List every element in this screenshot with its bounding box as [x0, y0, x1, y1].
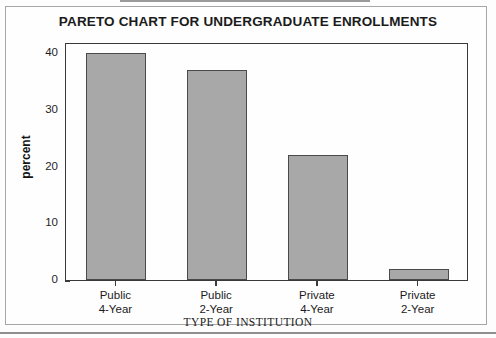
x-axis-tick-label-line2: 2-Year — [358, 302, 478, 316]
chart-title: PARETO CHART FOR UNDERGRADUATE ENROLLMEN… — [0, 14, 496, 29]
x-axis-tick — [316, 281, 318, 286]
y-axis-tick-label: 0 — [18, 273, 58, 285]
x-axis-tick-label-line1: Private — [299, 289, 335, 301]
x-axis-tick-label-line1: Public — [100, 289, 131, 301]
chart-page: PARETO CHART FOR UNDERGRADUATE ENROLLMEN… — [0, 0, 496, 338]
y-axis-tick-label: 10 — [18, 216, 58, 228]
page-bottom-rule — [0, 332, 496, 334]
y-axis-tick-label: 40 — [18, 46, 58, 58]
bar — [86, 53, 146, 280]
x-axis-tick — [115, 281, 117, 286]
x-axis-tick-label: Private2-Year — [358, 288, 478, 316]
x-axis-tick-label-line1: Public — [200, 289, 231, 301]
x-axis-tick-label-line1: Private — [400, 289, 436, 301]
y-axis-title: percent — [19, 117, 33, 197]
y-axis-tick-label: 30 — [18, 103, 58, 115]
bar — [389, 269, 449, 280]
bar — [187, 70, 247, 280]
bars-group — [66, 44, 467, 280]
y-axis-tick-label: 20 — [18, 160, 58, 172]
bar — [288, 155, 348, 280]
plot-area — [65, 43, 468, 281]
x-axis-tick — [215, 281, 217, 286]
x-axis-title: TYPE OF INSTITUTION — [0, 316, 496, 328]
page-top-rule — [120, 0, 370, 2]
x-axis-tick — [417, 281, 419, 286]
